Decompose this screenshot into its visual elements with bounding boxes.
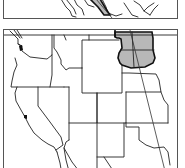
- california-coast: [15, 87, 57, 152]
- kansas-east-border: [161, 92, 168, 123]
- oregon-east-border: [50, 55, 52, 87]
- newmexico-border: [97, 123, 124, 157]
- top-map-panel: [3, 0, 178, 19]
- top-map-svg: [4, 0, 178, 19]
- utah-border: [69, 93, 97, 123]
- california-east-border: [38, 87, 63, 150]
- bottom-map-panel: [3, 29, 178, 168]
- top-shaded-region: [90, 0, 110, 15]
- wyoming-north-border: [82, 40, 119, 68]
- us-west-map-svg: [4, 30, 178, 168]
- wyoming-border: [82, 65, 122, 93]
- idaho-border: [54, 35, 82, 70]
- sf-bay: [24, 115, 27, 119]
- oregon-border: [11, 58, 64, 87]
- oklahoma-border: [126, 123, 170, 165]
- colorado-border: [97, 92, 126, 123]
